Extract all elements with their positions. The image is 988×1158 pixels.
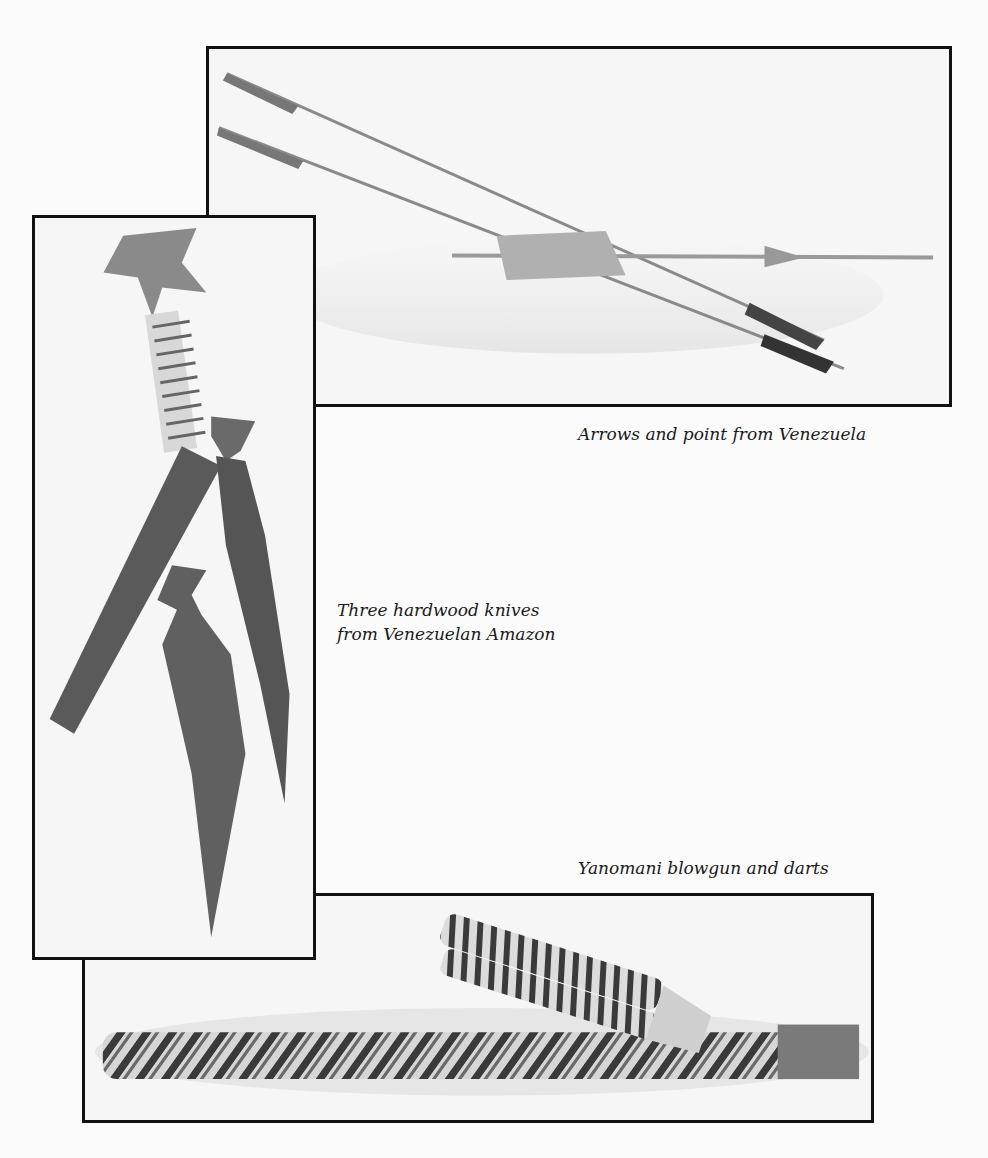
caption-arrows: Arrows and point from Venezuela	[578, 423, 866, 445]
caption-blowgun: Yanomani blowgun and darts	[578, 857, 829, 879]
caption-knives-line-2: from Venezuelan Amazon	[337, 623, 556, 645]
photo-frame-arrows	[206, 46, 952, 407]
knives-photo-illustration	[35, 218, 313, 957]
caption-knives-line-1: Three hardwood knives	[337, 599, 556, 621]
arrows-photo-illustration	[209, 49, 949, 404]
photo-frame-knives	[32, 215, 316, 960]
caption-knives: Three hardwood knives from Venezuelan Am…	[337, 599, 556, 645]
